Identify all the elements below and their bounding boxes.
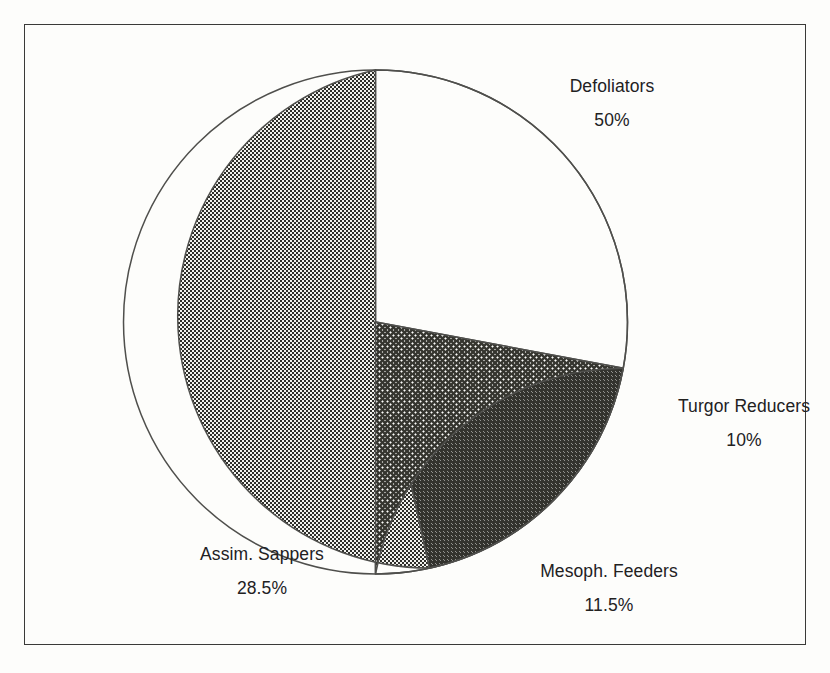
pie-label-defoliators-name: Defoliators [497,78,727,96]
pie-label-turgor-reducers: Turgor Reducers 10% [639,398,830,449]
pie-label-defoliators-value: 50% [497,112,727,130]
pie-label-defoliators: Defoliators 50% [497,78,727,129]
pie-label-assim-sappers-value: 28.5% [152,580,372,598]
pie-label-turgor-reducers-value: 10% [639,432,830,450]
pie-label-assim-sappers: Assim. Sappers 28.5% [152,546,372,597]
pie-label-mesoph-feeders-value: 11.5% [499,597,719,615]
figure-container: Defoliators 50% Turgor Reducers 10% Meso… [0,0,830,673]
pie-label-turgor-reducers-name: Turgor Reducers [639,398,830,416]
pie-label-mesoph-feeders-name: Mesoph. Feeders [499,563,719,581]
pie-label-mesoph-feeders: Mesoph. Feeders 11.5% [499,563,719,614]
pie-label-assim-sappers-name: Assim. Sappers [152,546,372,564]
